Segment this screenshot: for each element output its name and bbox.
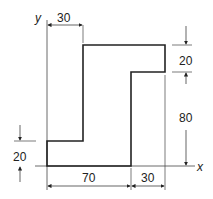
dim-bottom-width-label: 70	[82, 171, 96, 185]
dim-web-height-label: 80	[179, 111, 193, 125]
dim-top-flange-label: 20	[179, 54, 193, 68]
x-axis-label: x	[196, 160, 204, 174]
cross-section-diagram: y x 30 20 80 20 70 30	[0, 0, 213, 199]
dim-bottom-flange-label: 20	[13, 150, 27, 164]
section-outline	[47, 45, 165, 166]
dim-top-offset-label: 30	[57, 11, 71, 25]
dim-right-width-label: 30	[141, 171, 155, 185]
y-axis-label: y	[34, 11, 42, 25]
